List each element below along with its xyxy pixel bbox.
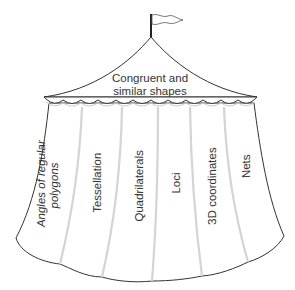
roof-label-line2: similar shapes [113,85,187,97]
panel-label: 3D coordinates [206,147,218,225]
panel-loci: Loci [170,172,182,193]
panel-3d-coordinates: 3D coordinates [206,147,218,225]
tent-diagram: Congruent and similar shapes Angles of r… [0,0,295,290]
panel-quadrilaterals: Quadrilaterals [133,150,145,222]
panel-label: Loci [170,172,182,193]
flag-icon [151,14,183,37]
panel-label-line2: polygons [48,161,60,209]
panel-tessellation: Tessellation [91,152,103,213]
roof-label-line1: Congruent and [112,72,188,84]
panel-nets: Nets [240,154,252,179]
panel-label-line1: Angles of regular [35,139,47,228]
panel-label: Nets [240,154,252,179]
panel-label: Quadrilaterals [133,150,145,222]
panel-label: Tessellation [91,152,103,213]
